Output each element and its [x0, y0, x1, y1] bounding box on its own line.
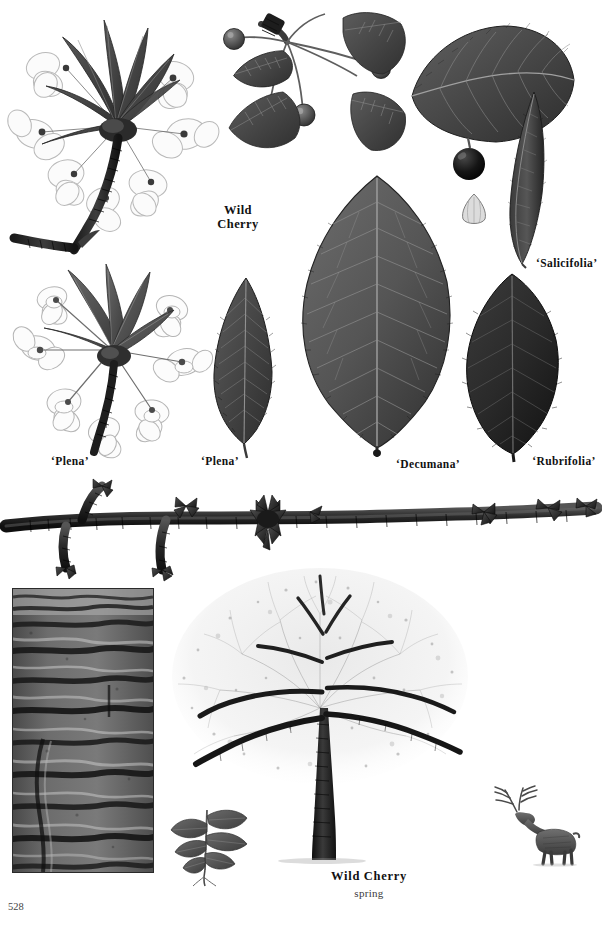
leaf-salicifolia	[500, 90, 556, 268]
fruiting-cluster	[225, 8, 415, 198]
bark-photograph	[12, 588, 154, 873]
label-decumana: ‘Decumana’	[396, 458, 460, 471]
label-plena-flower: ‘Plena’	[51, 455, 89, 468]
caption-season: spring	[331, 887, 407, 899]
caption-title: Wild Cherry	[331, 869, 407, 884]
figure-caption: Wild Cherry spring	[331, 869, 407, 899]
leaf-decumana	[295, 172, 460, 457]
flowering-branch-plena	[12, 262, 212, 452]
deer-scale-figure	[493, 786, 583, 866]
label-salicifolia: ‘Salicifolia’	[536, 257, 597, 270]
seedling	[163, 798, 259, 886]
botanical-plate: Wild Cherry	[0, 0, 602, 925]
leaf-plena	[206, 276, 284, 458]
label-wild-cherry-top: Wild Cherry	[217, 203, 258, 231]
label-rubrifolia: ‘Rubrifolia’	[532, 455, 596, 468]
page-number: 528	[8, 901, 24, 912]
leaf-rubrifolia	[458, 272, 568, 462]
flowering-branch-wild-cherry	[8, 6, 223, 256]
label-plena-leaf: ‘Plena’	[201, 455, 239, 468]
cherry-stone	[458, 192, 490, 228]
